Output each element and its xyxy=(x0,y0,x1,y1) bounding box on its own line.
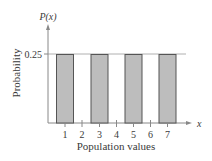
y-axis-arrow-icon xyxy=(46,24,50,30)
bars xyxy=(57,55,177,124)
y-axis-title: P(x) xyxy=(38,11,57,23)
bar-x5 xyxy=(125,55,142,124)
bar-x1 xyxy=(57,55,74,124)
x-tick-labels: 1 2 3 4 5 6 7 xyxy=(63,129,171,140)
x-tick-label: 1 xyxy=(63,129,68,140)
x-tick-label: 5 xyxy=(131,129,136,140)
probability-bar-chart: 0.25 1 2 3 4 5 6 7 P(x) x Population val… xyxy=(0,0,212,161)
x-tick-label: 2 xyxy=(80,129,85,140)
x-tick-label: 6 xyxy=(148,129,153,140)
x-axis-label: Population values xyxy=(77,140,156,152)
bar-x7 xyxy=(159,55,176,124)
y-tick-label: 0.25 xyxy=(25,49,43,60)
bar-x3 xyxy=(91,55,108,124)
x-tick-label: 4 xyxy=(114,129,119,140)
x-tick-label: 7 xyxy=(165,129,170,140)
y-axis-label: Probability xyxy=(10,48,22,97)
x-axis-arrow-icon xyxy=(186,121,192,125)
x-tick-label: 3 xyxy=(97,129,102,140)
x-axis-title: x xyxy=(196,118,202,129)
